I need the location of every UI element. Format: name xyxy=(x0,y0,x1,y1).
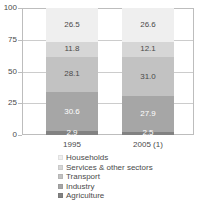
segment-value-label: 31.0 xyxy=(140,73,156,81)
stacked-bar-chart: 100 75 50 25 0 26.5 11.8 28.1 30.6 2.9 xyxy=(0,0,201,204)
y-tick-label-100: 100 xyxy=(4,4,17,12)
bar-2005[interactable]: 26.6 12.1 31.0 27.9 2.5 xyxy=(122,8,174,135)
segment-agriculture-2005[interactable]: 2.5 xyxy=(122,132,174,135)
legend-swatch-icon xyxy=(58,155,63,160)
x-tick-label-2005: 2005 (1) xyxy=(133,140,163,149)
segment-value-label: 12.1 xyxy=(140,45,156,53)
legend-item-agriculture[interactable]: Agriculture xyxy=(58,191,198,201)
segment-value-label: 26.6 xyxy=(140,21,156,29)
segment-value-label: 30.6 xyxy=(64,108,80,116)
segment-value-label: 26.5 xyxy=(64,21,80,29)
segment-households-2005[interactable]: 26.6 xyxy=(122,8,174,42)
legend-item-transport[interactable]: Transport xyxy=(58,172,198,182)
segment-industry-1995[interactable]: 30.6 xyxy=(46,92,98,131)
y-tick-label-0: 0 xyxy=(13,131,17,139)
segment-value-label: 27.9 xyxy=(140,110,156,118)
legend-item-industry[interactable]: Industry xyxy=(58,182,198,192)
legend-label: Agriculture xyxy=(66,191,104,200)
y-tick-label-75: 75 xyxy=(8,36,17,44)
legend: Households Services & other sectors Tran… xyxy=(58,153,198,201)
segment-industry-2005[interactable]: 27.9 xyxy=(122,96,174,131)
segment-households-1995[interactable]: 26.5 xyxy=(46,8,98,42)
legend-swatch-icon xyxy=(58,193,63,198)
legend-item-services[interactable]: Services & other sectors xyxy=(58,163,198,173)
segment-value-label: 2.9 xyxy=(66,129,77,137)
y-axis: 100 75 50 25 0 xyxy=(0,0,22,143)
legend-swatch-icon xyxy=(58,174,63,179)
segment-transport-2005[interactable]: 31.0 xyxy=(122,57,174,96)
segment-services-2005[interactable]: 12.1 xyxy=(122,42,174,57)
legend-label: Industry xyxy=(66,182,94,191)
y-tick-mark-0 xyxy=(18,135,22,136)
legend-label: Services & other sectors xyxy=(66,163,153,172)
legend-label: Households xyxy=(66,153,108,162)
legend-swatch-icon xyxy=(58,184,63,189)
segment-value-label: 28.1 xyxy=(64,70,80,78)
bars-layer: 26.5 11.8 28.1 30.6 2.9 26.6 12.1 3 xyxy=(22,8,194,135)
x-tick-label-1995: 1995 xyxy=(63,140,81,149)
bar-1995[interactable]: 26.5 11.8 28.1 30.6 2.9 xyxy=(46,8,98,135)
y-tick-label-25: 25 xyxy=(8,99,17,107)
legend-item-households[interactable]: Households xyxy=(58,153,198,163)
segment-agriculture-1995[interactable]: 2.9 xyxy=(46,131,98,135)
segment-transport-1995[interactable]: 28.1 xyxy=(46,57,98,93)
segment-services-1995[interactable]: 11.8 xyxy=(46,42,98,57)
segment-value-label: 11.8 xyxy=(65,45,80,53)
legend-swatch-icon xyxy=(58,165,63,170)
legend-label: Transport xyxy=(66,172,100,181)
x-axis: 1995 2005 (1) xyxy=(22,137,194,151)
y-tick-label-50: 50 xyxy=(8,68,17,76)
